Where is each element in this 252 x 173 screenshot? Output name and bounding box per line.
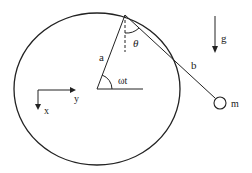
label-omega-t: ωt [118, 75, 128, 86]
label-theta: θ [133, 37, 139, 49]
label-b: b [191, 59, 197, 71]
pendulum-angle-arc [125, 28, 139, 33]
pendulum-diagram: a b θ ωt g m y x [0, 0, 252, 173]
label-y: y [74, 93, 79, 104]
label-g: g [221, 32, 227, 44]
label-m: m [231, 98, 239, 109]
pendulum-string-b [125, 15, 215, 98]
gravity-arrow-head-icon [212, 46, 218, 53]
label-x: x [44, 105, 49, 116]
rotation-angle-arc [102, 75, 112, 89]
mass-bob [214, 97, 226, 109]
label-a: a [99, 51, 104, 63]
axis-x-arrow-head-icon [35, 104, 41, 110]
